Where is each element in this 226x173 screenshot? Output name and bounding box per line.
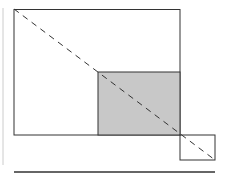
- diagonal-dashed-line: [14, 9, 215, 160]
- diagram-canvas: [0, 0, 226, 173]
